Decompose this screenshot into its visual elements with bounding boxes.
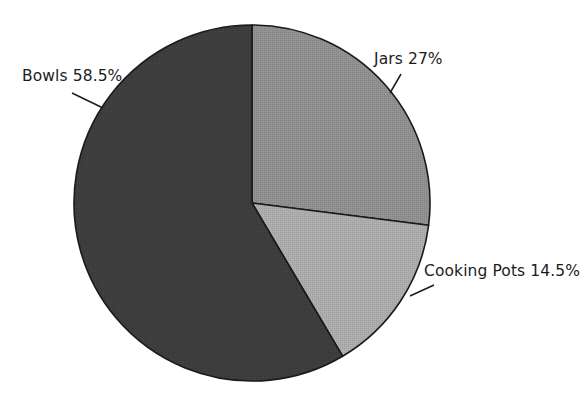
pie-label-jars: Jars 27% xyxy=(374,52,443,68)
leader-line-bowls xyxy=(72,93,103,108)
pie-label-cooking-pots: Cooking Pots 14.5% xyxy=(424,264,580,280)
pie-chart-figure: Bowls 58.5% Jars 27% Cooking Pots 14.5% xyxy=(0,0,586,408)
leader-line-jars xyxy=(390,74,401,93)
leader-line-cooking-pots xyxy=(410,285,434,296)
pie-label-bowls: Bowls 58.5% xyxy=(22,69,122,85)
pie-chart-canvas xyxy=(0,0,586,408)
